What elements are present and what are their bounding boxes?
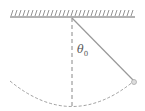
angle-label: θ0 [77, 43, 88, 58]
pendulum-bob [132, 80, 137, 85]
ceiling-hatching [11, 10, 133, 16]
pendulum-diagram [0, 0, 145, 111]
theta-subscript: 0 [84, 50, 88, 58]
theta-symbol: θ [77, 43, 84, 56]
